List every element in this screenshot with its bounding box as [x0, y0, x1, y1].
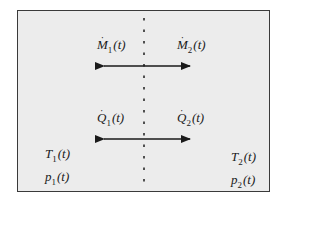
mass-flow-1-label: ·M1(t) — [97, 38, 126, 55]
pressure-2-label: p2(t) — [231, 173, 255, 190]
heat-flow-1-label: ·Q1(t) — [97, 111, 124, 128]
mass-flow-2-label: ·M2(t) — [177, 38, 206, 55]
temperature-1-label: T1(t) — [45, 147, 70, 164]
pressure-1-label: p1(t) — [45, 170, 69, 187]
heat-flow-2-label: ·Q2(t) — [177, 111, 204, 128]
temperature-2-label: T2(t) — [231, 150, 256, 167]
